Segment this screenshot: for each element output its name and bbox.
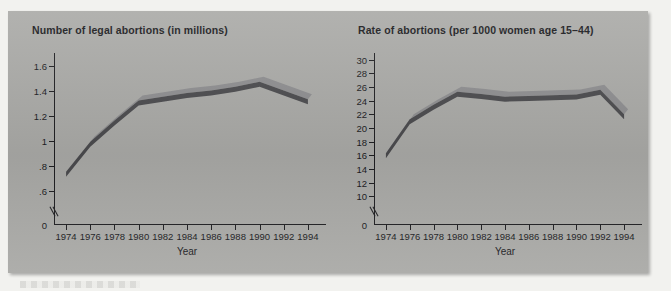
y-tick-label: 1.2 [34, 110, 47, 121]
x-tick [600, 225, 601, 230]
series-line [374, 53, 656, 245]
y-tick-label: 28 [356, 68, 367, 79]
figure-panel: Number of legal abortions (in millions) … [8, 11, 648, 273]
chart-title: Rate of abortions (per 1000 women age 15… [358, 24, 593, 36]
x-tick [457, 225, 458, 230]
y-tick [49, 141, 54, 142]
x-tick [553, 225, 554, 230]
y-tick [369, 73, 374, 74]
y-tick-label: 1 [42, 135, 47, 146]
y-tick [49, 191, 54, 192]
x-axis-title: Year [177, 246, 197, 257]
y-tick-label: 22 [356, 109, 367, 120]
x-tick-label: 1974 [375, 231, 396, 242]
y-tick-label: 30 [356, 54, 367, 65]
plot-area: Year 1.61.41.21.8.6019741976197819801982… [54, 53, 320, 225]
x-tick-label: 1988 [542, 231, 563, 242]
y-tick [369, 183, 374, 184]
chart-title: Number of legal abortions (in millions) [32, 24, 228, 36]
y-tick-label: 18 [356, 136, 367, 147]
x-tick [308, 225, 309, 230]
x-tick-label: 1976 [399, 231, 420, 242]
x-tick [235, 225, 236, 230]
y-tick [49, 66, 54, 67]
x-tick-label: 1986 [518, 231, 539, 242]
x-tick-label: 1978 [423, 231, 444, 242]
y-tick-label: 26 [356, 82, 367, 93]
x-tick-label: 1980 [447, 231, 468, 242]
x-tick [114, 225, 115, 230]
y-tick [369, 87, 374, 88]
x-tick-label: 1984 [494, 231, 515, 242]
x-axis-title: Year [495, 246, 515, 257]
x-tick-label: 1988 [225, 231, 246, 242]
x-tick-label: 1994 [614, 231, 635, 242]
y-tick-label: .8 [39, 160, 47, 171]
x-tick-label: 1990 [249, 231, 270, 242]
chart-rate-of-abortions: Rate of abortions (per 1000 women age 15… [334, 11, 648, 273]
x-tick-label: 1992 [273, 231, 294, 242]
series-front-face [386, 90, 624, 158]
x-tick-label: 1982 [152, 231, 173, 242]
x-tick [66, 225, 67, 230]
y-tick-label-zero: 0 [362, 220, 367, 231]
x-tick [163, 225, 164, 230]
x-tick [505, 225, 506, 230]
x-tick-label: 1992 [590, 231, 611, 242]
y-tick [49, 116, 54, 117]
figure-root: Number of legal abortions (in millions) … [0, 0, 671, 291]
x-tick-label: 1984 [176, 231, 197, 242]
x-tick [410, 225, 411, 230]
y-tick-label: 12 [356, 177, 367, 188]
x-tick-label: 1982 [471, 231, 492, 242]
series-front-face [66, 82, 308, 177]
x-tick-label: 1980 [128, 231, 149, 242]
y-tick [49, 166, 54, 167]
x-tick [624, 225, 625, 230]
x-tick [90, 225, 91, 230]
y-tick [369, 114, 374, 115]
x-tick [284, 225, 285, 230]
y-tick-label: .6 [39, 185, 47, 196]
x-tick-label: 1974 [56, 231, 77, 242]
x-tick-label: 1990 [566, 231, 587, 242]
x-tick-label: 1978 [104, 231, 125, 242]
y-tick [369, 142, 374, 143]
y-tick [369, 128, 374, 129]
x-tick [187, 225, 188, 230]
x-tick [481, 225, 482, 230]
series-line [54, 53, 340, 245]
x-tick [211, 225, 212, 230]
y-tick [369, 196, 374, 197]
x-tick-label: 1986 [201, 231, 222, 242]
y-tick-label: 20 [356, 123, 367, 134]
x-tick [529, 225, 530, 230]
x-tick [139, 225, 140, 230]
x-tick [260, 225, 261, 230]
y-tick [369, 60, 374, 61]
x-tick [386, 225, 387, 230]
y-tick-label: 1.6 [34, 60, 47, 71]
page-footer-artifact [20, 281, 140, 288]
x-tick-label: 1994 [297, 231, 318, 242]
y-tick-label-zero: 0 [42, 220, 47, 231]
y-tick-label: 1.4 [34, 85, 47, 96]
y-tick [369, 101, 374, 102]
plot-area: Year 30282624222018161412100197419761978… [374, 53, 636, 225]
chart-number-of-legal-abortions: Number of legal abortions (in millions) … [8, 11, 344, 273]
x-tick [576, 225, 577, 230]
x-tick-label: 1976 [80, 231, 101, 242]
y-tick-label: 16 [356, 150, 367, 161]
y-tick-label: 24 [356, 95, 367, 106]
y-tick [369, 169, 374, 170]
y-tick [369, 155, 374, 156]
x-tick [434, 225, 435, 230]
y-tick-label: 14 [356, 163, 367, 174]
y-tick-label: 10 [356, 191, 367, 202]
y-tick [49, 91, 54, 92]
